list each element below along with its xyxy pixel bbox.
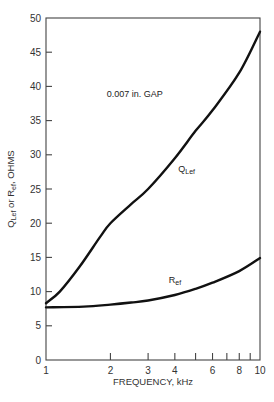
y-tick-label: 5	[35, 320, 41, 331]
gap-annotation: 0.007 in. GAP	[107, 89, 163, 99]
labels-layer: QLefRef	[169, 164, 195, 286]
x-axis: 12346810	[43, 353, 266, 376]
y-title-unit: , OHMS	[5, 150, 16, 184]
x-tick-label: 8	[236, 365, 242, 376]
y-tick-label: 0	[35, 355, 41, 366]
series-label-sub: ef	[175, 279, 181, 286]
series-r-ef-line	[46, 258, 260, 307]
plot-frame	[46, 18, 260, 360]
chart: 05101520253035404550 12346810 QLefRef 0.…	[0, 0, 274, 402]
y-tick-label: 25	[30, 184, 42, 195]
x-axis-title: FREQUENCY, kHz	[113, 376, 193, 387]
series-label-q-lef: QLef	[178, 164, 195, 175]
y-title-or: or R	[5, 190, 16, 211]
y-title-q-sub: Lef	[10, 210, 17, 220]
x-tick-label: 1	[43, 365, 49, 376]
series-label-r-ef: Ref	[169, 275, 181, 286]
y-tick-label: 20	[30, 218, 42, 229]
y-tick-label: 35	[30, 115, 42, 126]
y-axis: 05101520253035404550	[30, 13, 52, 366]
x-tick-label: 6	[210, 365, 216, 376]
x-tick-label: 4	[172, 365, 178, 376]
y-tick-label: 45	[30, 47, 42, 58]
series-label-main: Q	[178, 164, 185, 174]
series-label-sub: Lef	[185, 168, 195, 175]
svg-text:QLef or Ref, OHMS: QLef or Ref, OHMS	[5, 150, 17, 227]
y-tick-label: 30	[30, 149, 42, 160]
x-tick-label: 3	[145, 365, 151, 376]
y-tick-label: 50	[30, 13, 42, 24]
y-tick-label: 10	[30, 286, 42, 297]
y-tick-label: 15	[30, 252, 42, 263]
y-tick-label: 40	[30, 81, 42, 92]
x-tick-label: 10	[254, 365, 266, 376]
y-axis-title: QLef or Ref, OHMS	[5, 150, 17, 227]
y-title-q: Q	[5, 220, 16, 227]
series-q-lef-line	[46, 32, 260, 304]
x-tick-label: 2	[108, 365, 114, 376]
series-layer	[46, 32, 260, 308]
